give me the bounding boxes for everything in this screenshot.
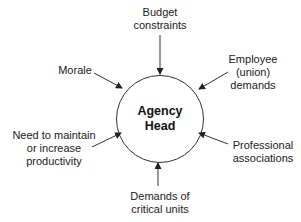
critical-line-2: critical units [120, 203, 200, 216]
budget-line-1: Budget [130, 6, 190, 19]
productivity-line-3: productivity [10, 155, 98, 168]
arrow-morale [94, 73, 122, 88]
label-budget: Budget constraints [130, 6, 190, 32]
employee-line-2: (union) [220, 66, 286, 79]
professional-line-1: Professional [228, 139, 298, 152]
productivity-line-1: Need to maintain [10, 129, 98, 142]
label-professional: Professional associations [228, 139, 298, 165]
morale-line-1: Morale [55, 64, 95, 77]
label-critical: Demands of critical units [120, 190, 200, 216]
center-line-1: Agency [125, 104, 195, 119]
productivity-line-2: or increase [10, 142, 98, 155]
label-productivity: Need to maintain or increase productivit… [10, 129, 98, 168]
professional-line-2: associations [228, 152, 298, 165]
label-morale: Morale [55, 64, 95, 77]
budget-line-2: constraints [130, 19, 190, 32]
critical-line-1: Demands of [120, 190, 200, 203]
arrow-professional [199, 133, 228, 144]
employee-line-1: Employee [220, 53, 286, 66]
center-line-2: Head [125, 119, 195, 134]
employee-line-3: demands [220, 79, 286, 92]
label-employee: Employee (union) demands [220, 53, 286, 92]
agency-head-label: Agency Head [125, 104, 195, 134]
